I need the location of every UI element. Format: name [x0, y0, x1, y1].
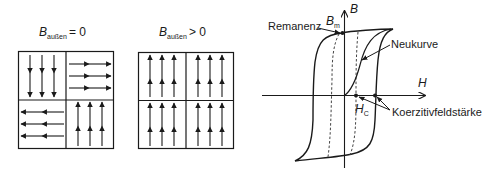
domain-arrows-right	[69, 64, 111, 88]
remanenz-label: Remanenz	[268, 20, 321, 32]
b-aussen-label-left: Baußen= 0	[39, 25, 86, 40]
minor-loop-right-dashed	[350, 32, 358, 155]
b-aussen-label-middle: Baußen> 0	[159, 25, 206, 40]
b-axis-label: B	[350, 2, 358, 16]
domain-arrows-down	[30, 55, 54, 97]
bm-label: Bm	[326, 14, 340, 29]
neukurve-curve	[345, 29, 392, 96]
domain-grid-left	[19, 52, 114, 149]
koerzitiv-label: Koerzitivfeldstärke	[392, 106, 482, 118]
panel-b-aussen-positive: Baußen> 0	[139, 25, 234, 149]
panel-b-aussen-zero: Baußen= 0	[19, 25, 114, 149]
h-axis-label: H	[418, 76, 427, 90]
neukurve-label: Neukurve	[391, 38, 438, 50]
hc-point	[354, 94, 358, 98]
hysteresis-panel: B H Bm HC Remanenz Neukurve Koerzitivfel…	[262, 2, 482, 168]
domain-grid-middle	[139, 53, 234, 149]
domain-arrows-left	[21, 112, 64, 136]
magnetization-diagram: Baußen= 0	[0, 0, 491, 175]
hc-label: HC	[355, 102, 369, 117]
remanenz-point	[341, 31, 345, 35]
domain-arrows-up	[78, 102, 102, 146]
koerzitiv-pointer-outer	[377, 97, 390, 110]
coercivity-point	[373, 94, 377, 98]
